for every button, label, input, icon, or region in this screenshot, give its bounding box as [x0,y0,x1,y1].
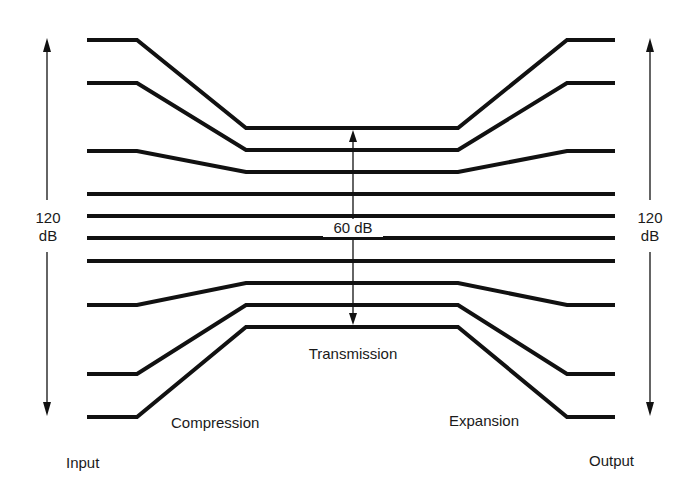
transmission-label: Transmission [283,345,423,363]
level-line [87,151,615,172]
input-range-label: 120 dB [28,209,68,245]
level-line [87,283,615,305]
input-range-value: 120 [28,209,68,227]
output-label: Output [589,452,634,470]
center-range-label: 60 dB [323,219,383,237]
input-label: Input [66,454,99,472]
output-range-unit: dB [630,227,670,245]
compander-diagram [0,0,683,501]
level-line [87,40,615,128]
output-range-value: 120 [630,209,670,227]
compression-label: Compression [171,414,259,432]
input-range-unit: dB [28,227,68,245]
output-range-label: 120 dB [630,209,670,245]
level-line [87,327,615,417]
expansion-label: Expansion [449,412,519,430]
